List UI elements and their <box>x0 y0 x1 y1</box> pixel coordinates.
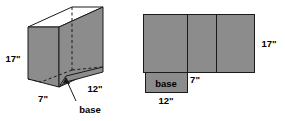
geometry-figure: 17" 7" 12" base 17" 7" base 12" <box>0 0 285 121</box>
prism-width-label: 12" <box>87 83 102 94</box>
figure-canvas: 17" 7" 12" base 17" 7" base 12" <box>0 0 285 121</box>
prism-base-label: base <box>79 104 101 115</box>
net-width-label: 12" <box>158 95 173 106</box>
net-side-panels-strip <box>144 15 255 73</box>
prism-left-face <box>28 27 59 87</box>
net-height-label: 17" <box>261 38 276 49</box>
net-depth-label: 7" <box>190 74 200 85</box>
prism-depth-label: 7" <box>38 93 48 104</box>
prism-height-label: 17" <box>5 53 20 64</box>
net-base-label: base <box>155 78 177 89</box>
